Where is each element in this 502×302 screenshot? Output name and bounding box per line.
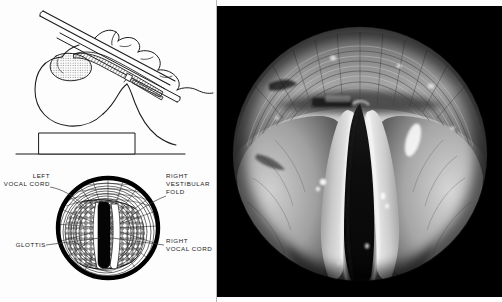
laryngoscopy-technique-diagram: [0, 2, 217, 157]
label-right-vestibular-fold-line3: FOLD: [166, 188, 185, 195]
label-right-vocal-cord: RIGHT VOCAL CORD: [166, 237, 212, 252]
label-right-vestibular-fold-line1: RIGHT: [166, 172, 188, 179]
label-right-vestibular-fold-line2: VESTIBULAR: [166, 180, 210, 187]
label-right-vocal-cord-line1: RIGHT: [166, 237, 188, 244]
glottis-view-diagram: LEFT VOCAL CORD RIGHT VESTIBULAR FOLD GL…: [0, 158, 217, 302]
label-left-vocal-cord-line2: VOCAL CORD: [4, 180, 50, 187]
label-glottis-line1: GLOTTIS: [16, 241, 46, 248]
label-left-vocal-cord-line1: LEFT: [33, 172, 50, 179]
label-right-vestibular-fold: RIGHT VESTIBULAR FOLD: [166, 172, 210, 195]
left-illustration-panel: LEFT VOCAL CORD RIGHT VESTIBULAR FOLD GL…: [0, 0, 217, 302]
label-right-vocal-cord-line2: VOCAL CORD: [166, 245, 212, 252]
label-left-vocal-cord: LEFT VOCAL CORD: [4, 172, 50, 187]
glottis-opening: [98, 202, 110, 268]
laryngoscopic-photograph-panel: [217, 6, 502, 297]
laryngoscopic-photograph: [217, 6, 502, 297]
label-glottis: GLOTTIS: [16, 241, 46, 248]
laryngoscopy-figure: LEFT VOCAL CORD RIGHT VESTIBULAR FOLD GL…: [0, 0, 502, 302]
